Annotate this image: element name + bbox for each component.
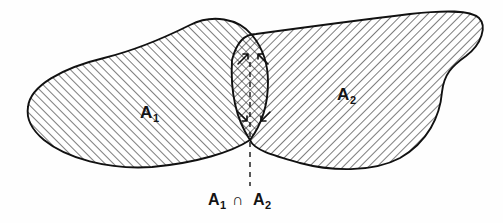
label-a2-base: A: [337, 85, 350, 104]
figure-root: A 1 A 2 A 1 ∩ A 2: [0, 0, 503, 223]
caption-right-subscript: 2: [265, 199, 271, 211]
caption-left-base: A: [208, 191, 220, 208]
caption-left-subscript: 1: [220, 199, 226, 211]
label-a1-base: A: [140, 103, 153, 122]
caption-right-base: A: [253, 191, 265, 208]
label-a1-subscript: 1: [153, 112, 159, 124]
set-intersection-diagram: A 1 A 2 A 1 ∩ A 2: [0, 0, 503, 223]
label-a2-subscript: 2: [350, 94, 356, 106]
caption-operator-icon: ∩: [232, 191, 244, 208]
